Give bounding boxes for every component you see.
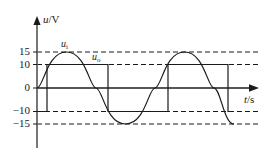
y-tick-label-15: 15 — [6, 46, 30, 57]
output-curve-subscript: o — [97, 56, 101, 64]
x-axis-arrowhead — [249, 84, 259, 91]
x-axis-title-unit: /s — [247, 93, 254, 105]
waveform-figure: 15 10 0 −10 −15 u/V t/s ui uo — [0, 0, 275, 156]
plot-canvas — [0, 0, 275, 156]
input-curve-subscript: i — [66, 43, 68, 51]
y-axis-arrowhead — [33, 16, 40, 25]
y-tick-label-minus-15: −15 — [2, 118, 30, 129]
y-axis-title: u/V — [43, 14, 60, 25]
y-tick-label-minus-10: −10 — [2, 105, 30, 116]
y-tick-label-0: 0 — [6, 82, 30, 93]
x-axis-title: t/s — [244, 94, 254, 105]
y-tick-label-10: 10 — [6, 59, 30, 70]
output-curve-label: uo — [92, 52, 101, 63]
y-axis-title-unit: /V — [49, 13, 60, 25]
input-curve-label: ui — [61, 39, 68, 50]
